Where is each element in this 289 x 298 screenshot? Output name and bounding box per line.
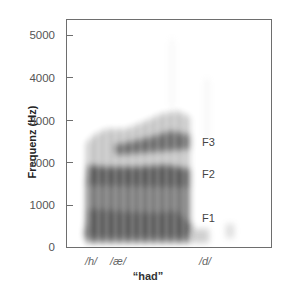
y-tick-mark <box>66 162 73 163</box>
y-tick-label-1000: 1000 <box>29 199 55 211</box>
formant-label-f2: F2 <box>202 168 215 180</box>
y-tick-label-5000: 5000 <box>29 29 55 41</box>
y-tick-label-2000: 2000 <box>29 157 55 169</box>
segment-label-ae: /æ/ <box>110 255 126 267</box>
y-tick-mark <box>66 205 73 206</box>
y-tick-label-3000: 3000 <box>29 115 55 127</box>
segment-label-d: /d/ <box>199 255 211 267</box>
y-axis-label: Frequenz (Hz) <box>26 82 38 202</box>
y-tick-mark <box>66 35 73 36</box>
y-tick-mark <box>66 120 73 121</box>
segment-label-h: /h/ <box>85 255 97 267</box>
x-axis-title: “had” <box>133 270 164 282</box>
y-tick-mark <box>66 77 73 78</box>
formant-label-f1: F1 <box>202 212 215 224</box>
y-tick-label-4000: 4000 <box>29 72 55 84</box>
y-tick-label-0: 0 <box>49 241 55 253</box>
formant-label-f3: F3 <box>202 136 215 148</box>
spectrogram-image <box>66 19 272 248</box>
